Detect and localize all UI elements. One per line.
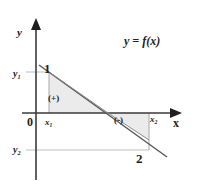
negative-sign-label: (-) [114, 116, 123, 125]
x-axis-label: x [173, 117, 179, 129]
equation-argument: (x) [146, 34, 160, 48]
y2-tick-label: y2 [13, 145, 21, 155]
point-2-label: 2 [136, 152, 143, 165]
graph-canvas [0, 0, 201, 195]
x2-tick-label: x2 [150, 115, 157, 124]
x2-base: x [150, 114, 155, 124]
equation-label: y = f(x) [124, 35, 160, 47]
x1-subscript: 1 [50, 122, 53, 128]
point-1-label: 1 [44, 62, 51, 75]
y2-subscript: 2 [17, 149, 20, 156]
equation-equals: = [129, 34, 142, 48]
positive-sign-label: (+) [48, 94, 59, 103]
x1-base: x [45, 117, 50, 127]
y-axis-label: y [17, 27, 22, 38]
y-axis-arrow-icon [31, 18, 41, 30]
x1-tick-label: x1 [45, 118, 52, 127]
y1-tick-label: y1 [13, 69, 21, 79]
function-graph-figure: y x 0 y1 y2 x1 x2 1 2 (+) (-) y = f(x) [0, 0, 201, 195]
y1-subscript: 1 [17, 73, 20, 80]
x2-subscript: 2 [155, 119, 158, 125]
origin-label: 0 [27, 116, 33, 128]
